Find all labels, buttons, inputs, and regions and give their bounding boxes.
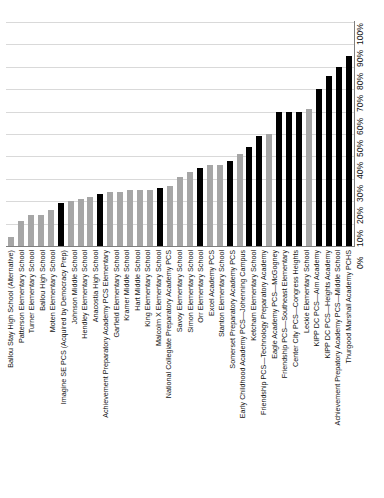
bar-slot bbox=[274, 22, 284, 246]
bar-slot bbox=[76, 22, 86, 246]
gridline bbox=[6, 246, 354, 247]
category-label-slot: Orr Elementary School bbox=[196, 250, 207, 498]
bar-slot bbox=[46, 22, 56, 246]
category-axis-tick-label: Simon Elementary School bbox=[187, 250, 195, 333]
category-axis-tick-label: Anacostia High School bbox=[92, 250, 100, 322]
value-axis-tick-label: 100% bbox=[356, 17, 384, 27]
category-label-slot: Kramer Middle School bbox=[122, 250, 133, 498]
bar-slot bbox=[165, 22, 175, 246]
bar-slot bbox=[36, 22, 46, 246]
category-axis-tick-label: King Elementary School bbox=[145, 250, 153, 327]
category-label-slot: Ballou High School bbox=[38, 250, 49, 498]
category-label-slot: Stanton Elementary School bbox=[217, 250, 228, 498]
category-axis-tick-label: Center City PCS—Congress Heights bbox=[292, 250, 300, 367]
category-axis-tick-label: Ballou High School bbox=[39, 250, 47, 311]
category-axis-tick-label: Friendship PCS—Southeast Elementary bbox=[282, 250, 290, 378]
bar-slot bbox=[185, 22, 195, 246]
category-axis-tick-label: KIPP DC PCS—Aim Academy bbox=[313, 250, 321, 347]
bar-slot bbox=[225, 22, 235, 246]
category-axis-tick-label: Malcolm X Elementary School bbox=[155, 250, 163, 346]
category-axis-tick-label: Patterson Elementary School bbox=[18, 250, 26, 343]
category-axis-tick-label: Stanton Elementary School bbox=[218, 250, 226, 337]
bar-slot bbox=[135, 22, 145, 246]
category-label-slot: Garfield Elementary School bbox=[111, 250, 122, 498]
category-label-slot: Turner Elementary School bbox=[27, 250, 38, 498]
bar-slot bbox=[235, 22, 245, 246]
category-label-slot: Friendship PCS—Technology Preparatory Ac… bbox=[259, 250, 270, 498]
bar bbox=[58, 203, 64, 246]
category-axis-tick-label: Moten Elementary School bbox=[50, 250, 58, 332]
category-label-slot: Hart Middle School bbox=[133, 250, 144, 498]
bar bbox=[38, 215, 44, 246]
bar-slot bbox=[125, 22, 135, 246]
bar-slot bbox=[195, 22, 205, 246]
category-label-slot: KIPP DC PCS—Heights Academy bbox=[322, 250, 333, 498]
category-axis-tick-label: Imagine SE PCS (Acquired by Democracy Pr… bbox=[60, 250, 68, 404]
category-label-slot: Achievement Prepatory Academy PCS—Middle… bbox=[333, 250, 344, 498]
category-axis-tick-label: Garfield Elementary School bbox=[113, 250, 121, 338]
bar-slot bbox=[175, 22, 185, 246]
category-axis-tick-label: Turner Elementary School bbox=[29, 250, 37, 333]
category-axis-tick-label: Johnson Middle School bbox=[71, 250, 79, 324]
bar bbox=[286, 112, 292, 246]
category-axis-tick-label: Thurgood Marshall Academy PCHS bbox=[345, 250, 353, 363]
bar-slot bbox=[95, 22, 105, 246]
plot-area bbox=[6, 22, 354, 246]
bar bbox=[227, 161, 233, 246]
category-axis-tick-label: Friendship PCS—Technology Preparatory Ac… bbox=[261, 250, 269, 415]
category-label-slot: Johnson Middle School bbox=[69, 250, 80, 498]
category-axis-tick-label: Achievement Preparatory Academy PCS Elem… bbox=[102, 250, 110, 418]
bar-slot bbox=[284, 22, 294, 246]
category-label-slot: Simon Elementary School bbox=[185, 250, 196, 498]
category-axis-tick-label: Somerset Preparatory Academy PCS bbox=[229, 250, 237, 369]
bar bbox=[246, 147, 252, 246]
category-label-slot: Thurgood Marshall Academy PCHS bbox=[344, 250, 355, 498]
category-axis-tick-label: Ketcham Elementary School bbox=[250, 250, 258, 341]
bar bbox=[127, 190, 133, 246]
bar-slot bbox=[115, 22, 125, 246]
bar bbox=[177, 177, 183, 246]
value-axis-ticks: 0%10%20%30%40%50%60%70%80%90%100% bbox=[356, 0, 384, 260]
category-label-slot: Center City PCS—Congress Heights bbox=[291, 250, 302, 498]
bar-chart: 0%10%20%30%40%50%60%70%80%90%100% Ballou… bbox=[0, 0, 384, 498]
bar bbox=[237, 154, 243, 246]
bar bbox=[316, 89, 322, 246]
bar-slot bbox=[314, 22, 324, 246]
bar-slot bbox=[245, 22, 255, 246]
bar bbox=[266, 134, 272, 246]
category-axis-tick-label: Savoy Elementary School bbox=[176, 250, 184, 332]
category-label-slot: Savoy Elementary School bbox=[175, 250, 186, 498]
bar bbox=[207, 165, 213, 246]
bar-slot bbox=[304, 22, 314, 246]
bar bbox=[326, 76, 332, 246]
bar-slot bbox=[294, 22, 304, 246]
category-label-slot: Achievement Preparatory Academy PCS Elem… bbox=[101, 250, 112, 498]
category-label-slot: Early Childhood Academy PCS—Johenning Ca… bbox=[238, 250, 249, 498]
bar bbox=[117, 192, 123, 246]
bar-slot bbox=[344, 22, 354, 246]
bar bbox=[137, 190, 143, 246]
bar-slot bbox=[86, 22, 96, 246]
category-axis-tick-label: Hart Middle School bbox=[134, 250, 142, 311]
bar bbox=[336, 67, 342, 246]
bar-slot bbox=[105, 22, 115, 246]
category-label-slot: Hendley Elementary School bbox=[80, 250, 91, 498]
bar bbox=[8, 237, 14, 246]
bar bbox=[306, 109, 312, 246]
bar-slot bbox=[16, 22, 26, 246]
bar bbox=[107, 192, 113, 246]
category-axis-tick-label: National Collegiate Preparatory Academy … bbox=[166, 250, 174, 398]
category-label-slot: Somerset Preparatory Academy PCS bbox=[227, 250, 238, 498]
bar-slot bbox=[145, 22, 155, 246]
bar bbox=[147, 190, 153, 246]
bar-slot bbox=[264, 22, 274, 246]
bar-slot bbox=[254, 22, 264, 246]
category-axis-tick-label: Hendley Elementary School bbox=[81, 250, 89, 339]
category-axis-labels: Ballou Stay High School (Alternative)Pat… bbox=[6, 250, 354, 498]
category-axis-tick-label: Excel Academy PCS bbox=[208, 250, 216, 316]
bar-slot bbox=[26, 22, 36, 246]
bar-series bbox=[6, 22, 354, 246]
bar bbox=[68, 201, 74, 246]
bar bbox=[28, 215, 34, 246]
bar bbox=[346, 56, 352, 246]
